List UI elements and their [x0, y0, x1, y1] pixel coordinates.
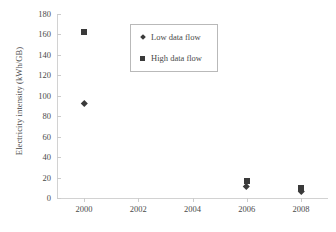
data-point-high-data-flow [81, 29, 87, 35]
y-tick-mark [57, 137, 61, 138]
data-point-low-data-flow [81, 100, 87, 106]
legend-entry-high-data-flow: High data flow [138, 51, 202, 65]
square-marker-icon [138, 56, 147, 61]
y-tick-mark [57, 157, 61, 158]
x-tick-mark [301, 198, 302, 202]
y-axis-line [57, 14, 58, 199]
x-tick-mark [193, 198, 194, 202]
data-point-low-data-flow [243, 184, 249, 190]
data-point-high-data-flow [244, 178, 250, 184]
x-tick-mark [138, 198, 139, 202]
y-tick-mark [57, 178, 61, 179]
x-tick-label: 2006 [223, 205, 271, 214]
y-tick-label: 160 [11, 30, 51, 39]
y-tick-label: 20 [11, 174, 51, 183]
y-tick-label: 0 [11, 194, 51, 203]
x-tick-label: 2000 [60, 205, 108, 214]
y-tick-label: 180 [11, 10, 51, 19]
y-tick-label: 140 [11, 51, 51, 60]
y-tick-label: 100 [11, 92, 51, 101]
legend-entry-low-data-flow: Low data flow [138, 30, 201, 44]
y-tick-label: 120 [11, 71, 51, 80]
legend-label-high-data-flow: High data flow [151, 53, 202, 63]
y-tick-label: 40 [11, 153, 51, 162]
y-tick-mark [57, 14, 61, 15]
y-tick-label: 80 [11, 112, 51, 121]
chart-container: Electricity intensity (kWh/GB) 020406080… [0, 0, 336, 232]
x-tick-mark [84, 198, 85, 202]
y-tick-mark [57, 55, 61, 56]
legend-label-low-data-flow: Low data flow [151, 32, 201, 42]
y-tick-mark [57, 75, 61, 76]
y-tick-mark [57, 198, 61, 199]
x-tick-label: 2008 [277, 205, 325, 214]
data-point-high-data-flow [298, 185, 304, 191]
y-tick-mark [57, 96, 61, 97]
diamond-marker-icon [138, 35, 147, 39]
y-tick-mark [57, 116, 61, 117]
y-tick-mark [57, 34, 61, 35]
x-tick-label: 2002 [114, 205, 162, 214]
x-tick-label: 2004 [169, 205, 217, 214]
x-tick-mark [247, 198, 248, 202]
chart-legend: Low data flow High data flow [130, 24, 218, 72]
y-tick-label: 60 [11, 133, 51, 142]
